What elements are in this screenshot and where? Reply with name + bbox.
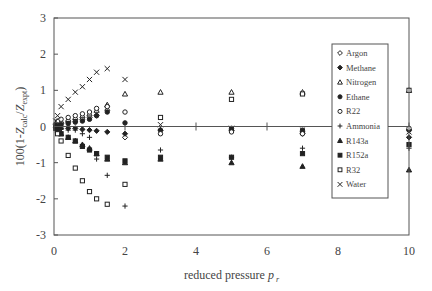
x-axis-title: reduced pressure p r — [184, 268, 280, 284]
legend-label: Water — [346, 179, 366, 189]
x-tick-label: 8 — [335, 244, 341, 258]
x-tick-label: 10 — [403, 244, 415, 258]
y-tick-label: 1 — [40, 83, 46, 97]
x-tick-label: 4 — [193, 244, 199, 258]
x-tick-label: 2 — [122, 244, 128, 258]
legend-label: R32 — [346, 165, 360, 175]
svg-text:reduced pressure p r: reduced pressure p r — [184, 268, 280, 284]
legend-label: R22 — [346, 106, 360, 116]
legend-label: R152a — [346, 150, 368, 160]
y-tick-label: 2 — [40, 47, 46, 61]
y-tick-label: -1 — [36, 156, 46, 170]
legend-label: R143a — [346, 136, 368, 146]
legend-label: Nitrogen — [346, 77, 377, 87]
y-tick-label: -2 — [36, 192, 46, 206]
y-axis-title: 100(1-Zcalc/Zexpt) — [13, 87, 29, 166]
legend-label: Methane — [346, 63, 376, 73]
legend-label: Ethane — [346, 92, 370, 102]
scatter-chart: 100(1-Zcalc/Zexpt) reduced pressure p r … — [0, 0, 432, 291]
legend: ArgonMethaneNitrogenEthaneR22AmmoniaR143… — [332, 44, 388, 198]
y-tick-label: 0 — [40, 120, 46, 134]
x-tick-label: 6 — [264, 244, 270, 258]
legend-label: Argon — [346, 48, 368, 58]
y-tick-label: -3 — [36, 228, 46, 242]
x-tick-label: 0 — [51, 244, 57, 258]
legend-label: Ammonia — [346, 121, 380, 131]
svg-text:100(1-Zcalc/Zexpt): 100(1-Zcalc/Zexpt) — [13, 87, 29, 166]
y-tick-label: 3 — [40, 11, 46, 25]
